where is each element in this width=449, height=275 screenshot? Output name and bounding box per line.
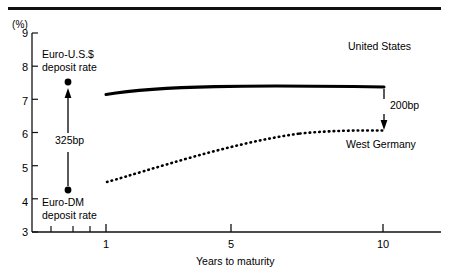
- marker-euro-dm-deposit-rate: [65, 187, 72, 194]
- arrowhead-down-right: [381, 120, 388, 130]
- annotation-euro-usd-line1: Euro-U.S.$: [42, 48, 97, 61]
- series-line-west-germany-tail: [300, 130, 384, 133]
- x-axis-title: Years to maturity: [196, 255, 274, 267]
- series-line-us: [106, 86, 384, 94]
- annotation-spread-200bp: 200bp: [388, 99, 421, 111]
- spread-arrow-200bp: [381, 89, 388, 130]
- series-label-west-germany: West Germany: [346, 138, 416, 150]
- annotation-euro-usd-line2: deposit rate: [42, 61, 97, 74]
- x-axis-major-ticks: [106, 224, 383, 232]
- annotation-euro-usd-deposit-rate: Euro-U.S.$ deposit rate: [42, 48, 97, 73]
- annotation-euro-dm-line1: Euro-DM: [42, 196, 97, 209]
- series-label-united-states: United States: [348, 40, 411, 52]
- figure-container: (%) 9 8 7 6 5 4 3 1 5 10: [0, 0, 449, 275]
- annotation-spread-325bp: 325bp: [53, 134, 86, 146]
- x-axis-minor-ticks: [51, 226, 90, 232]
- series-line-west-germany: [107, 134, 300, 183]
- arrowhead-up: [65, 88, 72, 98]
- y-axis-ticks: [32, 33, 38, 232]
- annotation-euro-dm-line2: deposit rate: [42, 209, 97, 222]
- annotation-euro-dm-deposit-rate: Euro-DM deposit rate: [42, 196, 97, 221]
- marker-euro-usd-deposit-rate: [65, 79, 72, 86]
